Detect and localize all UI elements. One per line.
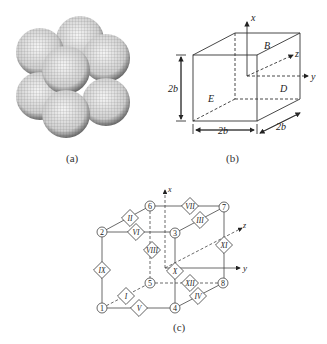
- svg-text:4: 4: [173, 304, 177, 313]
- svg-text:XI: XI: [219, 241, 228, 250]
- panel-c-axis-labels: x y z: [167, 185, 247, 273]
- element-xi: XI: [216, 237, 233, 254]
- svg-text:VI: VI: [132, 228, 140, 237]
- node-6: 6: [145, 201, 155, 211]
- sphere-front-bottom: [42, 90, 90, 138]
- height-dimension: 2b: [168, 83, 178, 94]
- element-i: I: [118, 288, 135, 305]
- node-8: 8: [218, 278, 228, 288]
- panel-b-labels: x y z B D E 2b 2b 2b: [168, 12, 316, 136]
- z-axis-arrow: [247, 55, 293, 76]
- node-4: 4: [170, 303, 180, 313]
- node-5: 5: [145, 278, 155, 288]
- y-axis-label: y: [310, 71, 316, 82]
- element-iv: IV: [190, 288, 207, 305]
- svg-text:5: 5: [148, 279, 152, 288]
- c-x-axis-label: x: [167, 185, 172, 194]
- svg-text:6: 6: [148, 202, 152, 211]
- svg-text:XII: XII: [184, 279, 195, 288]
- svg-text:X: X: [172, 267, 178, 276]
- svg-text:VIII: VIII: [146, 246, 159, 255]
- panel-c-nodes: 1 2 3 4 5 6 7 8: [97, 201, 229, 313]
- svg-text:3: 3: [173, 229, 177, 238]
- element-x: X: [167, 263, 184, 280]
- panel-a-spheres: [16, 16, 130, 138]
- depth-dimension: 2b: [276, 121, 286, 132]
- x-axis-label: x: [250, 12, 256, 23]
- node-7: 7: [219, 202, 229, 212]
- element-ix: IX: [94, 262, 111, 279]
- face-label-b: B: [264, 40, 270, 51]
- svg-text:III: III: [195, 216, 204, 225]
- sphere-front-top: [42, 46, 90, 94]
- element-iii: III: [192, 212, 209, 229]
- svg-text:I: I: [124, 292, 128, 301]
- width-dimension: 2b: [218, 125, 228, 136]
- face-label-e: E: [207, 93, 214, 104]
- svg-text:II: II: [127, 214, 133, 223]
- svg-text:IX: IX: [97, 266, 105, 275]
- svg-text:1: 1: [100, 304, 104, 313]
- node-3: 3: [170, 228, 180, 238]
- svg-text:IV: IV: [193, 292, 202, 301]
- c-z-axis-label: z: [242, 221, 247, 230]
- caption-b: (b): [226, 152, 239, 164]
- panel-c-elements: II VII III VI VIII XI IX X XII I V IV: [94, 198, 233, 317]
- caption-a: (a): [66, 152, 78, 164]
- face-label-d: D: [279, 83, 288, 94]
- svg-text:VII: VII: [185, 202, 195, 211]
- figure-canvas: x y z B D E 2b 2b 2b x y z 1 2 3 4 5 6 7…: [0, 0, 327, 344]
- element-v: V: [131, 300, 148, 317]
- element-vii: VII: [182, 198, 199, 215]
- z-axis-label: z: [294, 48, 299, 59]
- c-y-axis-label: y: [242, 263, 247, 273]
- node-2: 2: [97, 227, 107, 237]
- svg-text:2: 2: [100, 228, 104, 237]
- panel-b-cube: [176, 22, 308, 134]
- node-1: 1: [97, 303, 107, 313]
- element-viii: VIII: [144, 242, 161, 259]
- element-xii: XII: [182, 275, 199, 292]
- svg-text:7: 7: [222, 203, 226, 212]
- svg-text:8: 8: [221, 279, 225, 288]
- caption-c: (c): [173, 321, 185, 333]
